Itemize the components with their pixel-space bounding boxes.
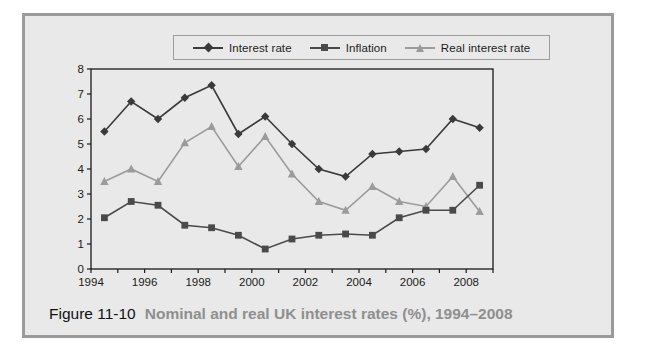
legend-item-interest-rate: Interest rate: [193, 42, 292, 54]
y-axis-tick-label: 1: [78, 238, 84, 250]
triangle-marker: [395, 197, 403, 205]
x-axis-tick-label: 2002: [293, 276, 319, 288]
x-axis-tick-label: 2000: [239, 276, 265, 288]
square-marker: [423, 207, 430, 214]
square-marker: [289, 236, 296, 243]
square-marker: [128, 198, 135, 205]
square-marker-icon: [321, 44, 328, 51]
chart-legend: Interest rate Inflation Real interest ra…: [173, 35, 550, 60]
diamond-marker: [207, 81, 215, 89]
x-axis-tick-label: 2004: [346, 276, 372, 288]
caption-title: Nominal and real UK interest rates (%), …: [145, 305, 513, 323]
series-line: [104, 127, 479, 212]
square-marker: [101, 214, 108, 221]
figure-card: Interest rate Inflation Real interest ra…: [22, 13, 614, 338]
triangle-marker: [449, 172, 457, 180]
figure-caption: Figure 11-10 Nominal and real UK interes…: [25, 293, 611, 335]
x-axis-tick-label: 1998: [185, 276, 211, 288]
legend-label-real-interest-rate: Real interest rate: [441, 42, 530, 54]
triangle-marker: [368, 182, 376, 190]
y-axis-tick-label: 2: [78, 213, 84, 225]
legend-item-real-interest-rate: Real interest rate: [405, 42, 530, 54]
x-axis-tick-label: 2008: [453, 276, 479, 288]
y-axis-tick-label: 6: [78, 113, 84, 125]
square-marker: [155, 202, 162, 209]
y-axis-tick-label: 4: [78, 163, 85, 175]
x-axis-tick-label: 1994: [78, 276, 104, 288]
square-marker: [208, 224, 215, 231]
square-marker: [315, 232, 322, 239]
square-marker: [449, 207, 456, 214]
x-axis-tick-label: 2006: [400, 276, 426, 288]
series-line: [104, 85, 479, 176]
square-marker: [235, 232, 242, 239]
triangle-marker: [181, 138, 189, 146]
y-axis-tick-label: 3: [78, 188, 84, 200]
y-axis-tick-label: 8: [78, 63, 84, 75]
series-real-interest-rate: [100, 122, 484, 215]
triangle-marker: [207, 122, 215, 130]
x-axis-tick-label: 1996: [132, 276, 158, 288]
y-axis-tick-label: 5: [78, 138, 84, 150]
square-marker: [262, 246, 269, 253]
legend-line-real-interest-rate: [405, 47, 435, 49]
diamond-marker-icon: [203, 43, 213, 53]
y-axis-tick-label: 0: [78, 263, 84, 275]
diamond-marker: [395, 147, 403, 155]
series-inflation: [101, 182, 483, 253]
triangle-marker: [127, 165, 135, 173]
square-marker: [396, 214, 403, 221]
legend-label-inflation: Inflation: [346, 42, 387, 54]
legend-line-interest-rate: [193, 47, 223, 49]
line-chart-svg: 0123456781994199619982000200220042006200…: [65, 63, 505, 303]
figure-inner: Interest rate Inflation Real interest ra…: [25, 16, 611, 335]
square-marker: [181, 222, 188, 229]
triangle-marker: [261, 132, 269, 140]
diamond-marker: [475, 124, 483, 132]
square-marker: [342, 231, 349, 238]
triangle-marker-icon: [416, 44, 424, 52]
chart-plot-area: 0123456781994199619982000200220042006200…: [65, 63, 505, 303]
square-marker: [369, 232, 376, 239]
caption-number: Figure 11-10: [49, 305, 136, 323]
diamond-marker: [234, 130, 242, 138]
y-axis-tick-label: 7: [78, 88, 84, 100]
series-interest-rate: [100, 81, 484, 181]
legend-label-interest-rate: Interest rate: [229, 42, 292, 54]
legend-item-inflation: Inflation: [310, 42, 387, 54]
legend-line-inflation: [310, 47, 340, 49]
square-marker: [476, 182, 483, 189]
